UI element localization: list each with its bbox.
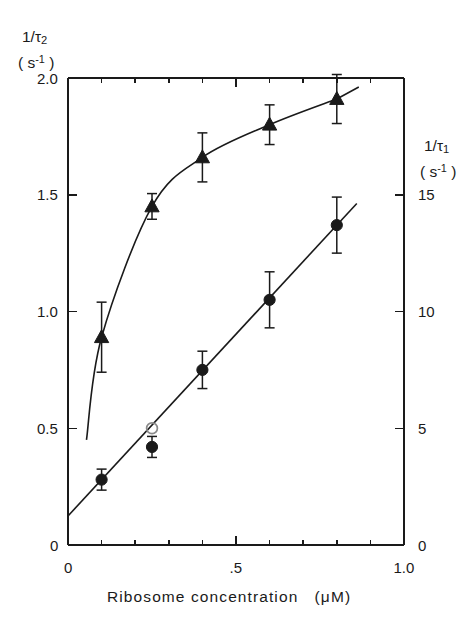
error-bars <box>97 74 342 490</box>
plot-canvas <box>0 0 476 627</box>
data-points <box>94 92 343 486</box>
data-curves <box>68 87 359 516</box>
axis-ticks <box>68 78 404 545</box>
figure-panel: 1/τ2 ( s-1 ) 1/τ1 ( s-1 ) Ribosome conce… <box>0 0 476 627</box>
axis-frame <box>68 78 404 545</box>
